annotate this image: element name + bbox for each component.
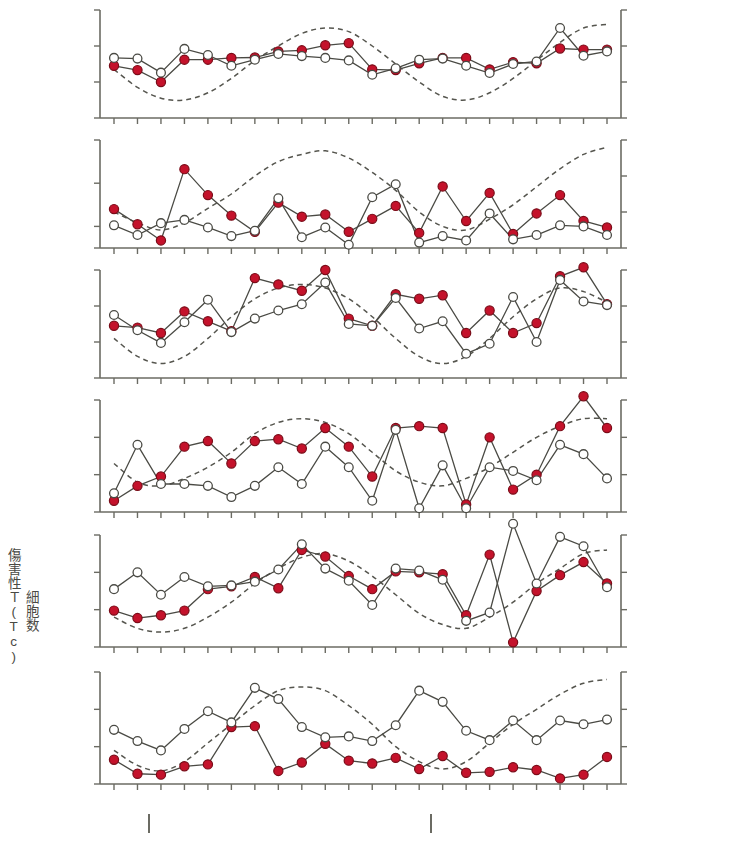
panel-d-point-closed-red [438,423,447,432]
panel-c-point-open-white [368,321,377,330]
panel-f-point-closed-red [109,755,118,764]
panel-d-point-closed-red [555,422,564,431]
panel-c-point-closed-red [579,263,588,272]
panel-e-point-closed-red [321,552,330,561]
panel-f-plot [0,668,729,788]
panel-f-point-closed-red [579,770,588,779]
panel-a-point-open-white [110,53,119,62]
panel-a-point-open-white [204,51,213,60]
panel-f-point-closed-red [415,764,424,773]
panel-a-point-open-white [297,52,306,61]
panel-d-point-closed-red [485,433,494,442]
panel-e-point-closed-red [579,557,588,566]
panel-b-point-closed-red [321,210,330,219]
panel-f-point-open-white [579,720,588,729]
panel-f-point-open-white [415,686,424,695]
panel-b-point-open-white [415,238,424,247]
panel-c-point-closed-red [532,319,541,328]
panel-b-point-closed-red [156,236,165,245]
panel-f-point-closed-red [462,768,471,777]
panel-b-point-closed-red [227,211,236,220]
panel-d-point-closed-red [508,485,517,494]
panel-b-point-open-white [180,216,189,225]
panel-f-point-open-white [180,725,189,734]
panel-e-point-open-white [227,581,236,590]
panel-f-point-open-white [509,716,518,725]
panel-b-point-open-white [344,240,353,249]
panel-d-point-open-white [110,489,119,498]
panel-a-point-closed-red [321,41,330,50]
panel-f-point-open-white [274,695,283,704]
panel-e-point-open-white [603,583,612,592]
panel-c-point-closed-red [109,321,118,330]
panel-e-point-open-white [415,566,424,575]
panel-b-point-open-white [485,209,494,218]
panel-f-temperature-curve [114,679,607,771]
panel-c-point-closed-red [415,294,424,303]
panel-f-point-closed-red [274,766,283,775]
panel-b-series-closed-red-line [114,169,607,240]
panel-f-point-open-white [157,746,166,755]
panel-a-point-open-white [368,70,377,79]
panel-d-point-open-white [556,440,565,449]
panel-f-point-open-white [462,726,471,735]
panel-b-point-open-white [227,232,236,241]
panel-b-point-closed-red [344,227,353,236]
panel-a-point-open-white [180,44,189,53]
panel-b-point-open-white [391,180,400,189]
panel-a-point-closed-red [555,44,564,53]
panel-d-point-closed-red [368,472,377,481]
panel-b-point-closed-red [532,209,541,218]
panel-a-point-closed-red [180,55,189,64]
panel-d-point-open-white [462,504,471,513]
panel-c-point-open-white [204,295,213,304]
panel-d-point-open-white [368,496,377,505]
panel-a-point-open-white [227,61,236,70]
panel-e-point-open-white [532,579,541,588]
panel-d-point-open-white [297,480,306,489]
panel-b-point-open-white [157,219,166,228]
panel-a-point-open-white [579,51,588,60]
panel-e-point-closed-red [368,585,377,594]
panel-c-point-closed-red [462,328,471,337]
panel-d-point-open-white [391,425,400,434]
panel-e-point-open-white [250,577,259,586]
panel-b-point-open-white [274,194,283,203]
panel-b-point-open-white [133,231,142,240]
panel-b-point-open-white [297,233,306,242]
panel-a-point-open-white [391,64,400,73]
panel-d-point-open-white [204,481,213,490]
panel-c-point-closed-red [274,280,283,289]
panel-e-series-closed-red-line [114,550,607,642]
panel-d-point-closed-red [321,423,330,432]
panel-b-point-closed-red [180,165,189,174]
panel-a-point-open-white [157,68,166,77]
panel-f-point-open-white [556,716,565,725]
panel-c-point-closed-red [485,306,494,315]
panel-e-point-open-white [485,608,494,617]
panel-e-plot [0,531,729,651]
panel-d-point-open-white [157,480,166,489]
panel-e-point-open-white [110,585,119,594]
panel-f-point-open-white [344,732,353,741]
panel-a-point-closed-red [344,39,353,48]
panel-c-point-open-white [321,278,330,287]
panel-c-point-closed-red [321,265,330,274]
panel-c-point-open-white [344,320,353,329]
panel-e-point-closed-red [133,613,142,622]
panel-a-point-open-white [438,54,447,63]
panel-d-point-open-white [532,476,541,485]
panel-d-point-closed-red [250,436,259,445]
panel-e-point-open-white [274,565,283,574]
panel-d-point-open-white [603,474,612,483]
panel-f-point-closed-red [555,774,564,783]
panel-b-point-open-white [532,231,541,240]
panel-b-point-closed-red [297,212,306,221]
panel-e-point-open-white [438,575,447,584]
panel-f-point-closed-red [250,722,259,731]
panel-d-point-closed-red [133,481,142,490]
panel-b-point-open-white [110,221,119,230]
panel-b-point-closed-red [109,205,118,214]
panel-b-point-closed-red [485,188,494,197]
panel-e-point-closed-red [156,611,165,620]
